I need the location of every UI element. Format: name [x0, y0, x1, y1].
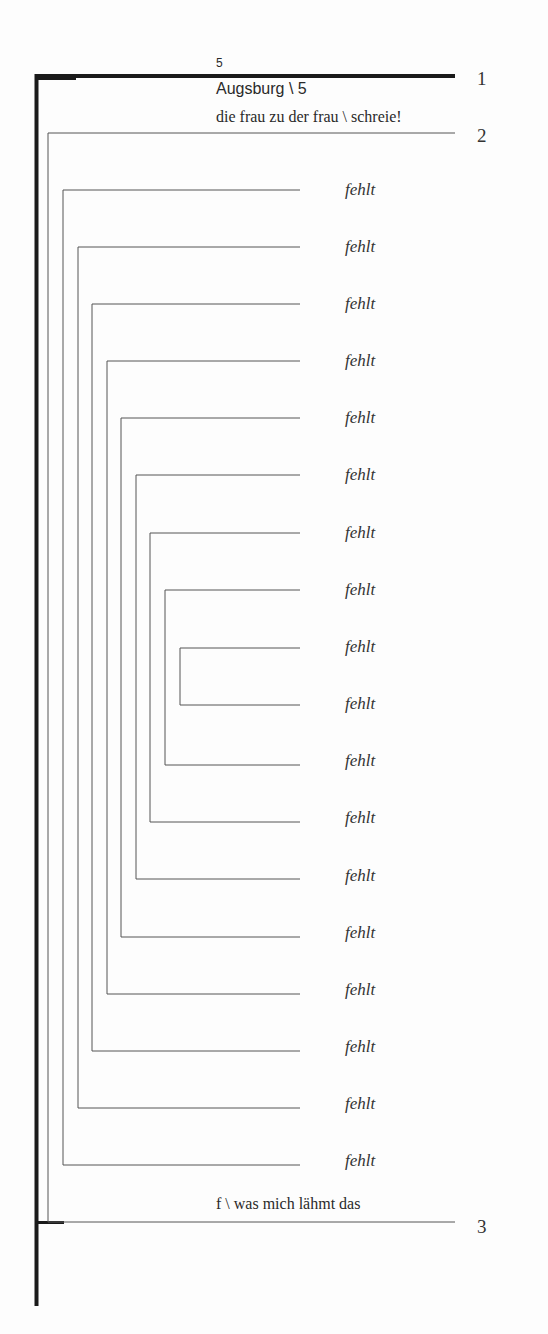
bracket-9 — [180, 648, 300, 705]
item-label: fehlt — [345, 751, 375, 771]
small-number: 5 — [216, 56, 223, 70]
line-2-bracket — [48, 133, 455, 1222]
bracket-3 — [92, 304, 300, 1051]
marker-3: 3 — [477, 1216, 487, 1238]
item-label: fehlt — [345, 923, 375, 943]
bracket-2 — [78, 247, 300, 1108]
item-label: fehlt — [345, 1037, 375, 1057]
bracket-8 — [165, 590, 300, 765]
bracket-6 — [136, 475, 300, 879]
marker-2: 2 — [477, 125, 487, 147]
marker-1: 1 — [477, 68, 487, 90]
item-label: fehlt — [345, 866, 375, 886]
footer-text: f \ was mich lähmt das — [216, 1195, 360, 1213]
item-label: fehlt — [345, 180, 375, 200]
item-label: fehlt — [345, 237, 375, 257]
item-label: fehlt — [345, 523, 375, 543]
bracket-diagram — [0, 0, 548, 1334]
item-label: fehlt — [345, 808, 375, 828]
bracket-7 — [150, 533, 300, 822]
place-label: Augsburg \ 5 — [216, 80, 307, 98]
item-label: fehlt — [345, 637, 375, 657]
item-label: fehlt — [345, 1094, 375, 1114]
item-label: fehlt — [345, 694, 375, 714]
headline-text: die frau zu der frau \ schreie! — [216, 108, 402, 126]
item-label: fehlt — [345, 980, 375, 1000]
item-label: fehlt — [345, 408, 375, 428]
bracket-5 — [121, 418, 300, 937]
item-label: fehlt — [345, 465, 375, 485]
item-label: fehlt — [345, 1151, 375, 1171]
item-label: fehlt — [345, 351, 375, 371]
bracket-1 — [63, 190, 300, 1165]
item-label: fehlt — [345, 580, 375, 600]
item-label: fehlt — [345, 294, 375, 314]
